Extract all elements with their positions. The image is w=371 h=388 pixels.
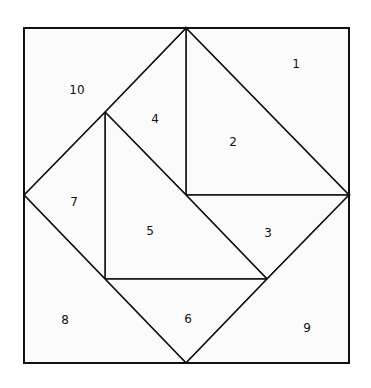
piece-label: 7 — [70, 195, 78, 209]
piece-label: 6 — [184, 312, 192, 326]
piece-label: 5 — [146, 224, 154, 238]
piece-label: 9 — [303, 321, 311, 335]
piece-label: 10 — [69, 83, 84, 97]
piece-label: 3 — [264, 226, 272, 240]
piece-label: 8 — [61, 313, 69, 327]
tangram-diagram: 12345678910 — [0, 0, 371, 388]
piece-label: 1 — [292, 57, 300, 71]
piece-label: 2 — [229, 135, 237, 149]
piece-label: 4 — [151, 112, 159, 126]
